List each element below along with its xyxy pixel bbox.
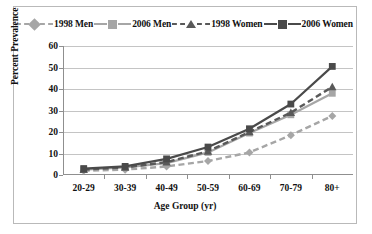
x-tick-label: 80+ — [325, 183, 340, 193]
x-tick-label: 60-69 — [238, 183, 260, 193]
y-axis-title: Percent Prevalence — [10, 8, 20, 85]
x-tick-label: 30-39 — [114, 183, 136, 193]
diamond-marker-icon — [245, 148, 253, 156]
legend-line-segment — [197, 23, 210, 25]
y-tick-label: 60 — [34, 42, 58, 50]
legend-item-1998-men[interactable]: 1998 Men — [16, 15, 94, 33]
diamond-marker-icon — [28, 18, 41, 31]
y-tick-label: 20 — [34, 128, 58, 136]
square-marker-icon — [329, 63, 336, 70]
square-marker-icon — [163, 155, 170, 162]
triangle-marker-icon — [186, 20, 196, 28]
square-marker-icon — [108, 20, 117, 29]
square-marker-icon — [329, 90, 336, 97]
plot-area — [63, 46, 353, 175]
square-marker-icon — [246, 125, 253, 132]
legend-item-2006-women[interactable]: 2006 Women — [264, 15, 354, 33]
legend-line-segment — [264, 23, 277, 25]
legend-item-1998-women[interactable]: 1998 Women — [172, 15, 263, 33]
triangle-marker-icon — [328, 83, 336, 91]
y-tick-label: 10 — [34, 150, 58, 158]
x-tick-label: 70-79 — [280, 183, 302, 193]
legend-line-segment — [288, 23, 301, 25]
legend-item-2006-men[interactable]: 2006 Men — [94, 15, 172, 33]
series-lines — [63, 46, 353, 175]
square-marker-icon — [80, 165, 87, 172]
series-1998-men — [80, 112, 337, 175]
y-tick-label: 40 — [34, 85, 58, 93]
legend-label-1998-women: 1998 Women — [210, 15, 263, 33]
x-tick-label: 20-29 — [73, 183, 95, 193]
y-tick-label: 30 — [34, 107, 58, 115]
legend-label-2006-women: 2006 Women — [301, 15, 354, 33]
legend-label-1998-men: 1998 Men — [53, 15, 94, 33]
square-marker-icon — [278, 20, 287, 29]
legend-line-segment — [94, 23, 107, 25]
square-marker-icon — [122, 163, 129, 170]
legend-line-segment — [172, 23, 185, 25]
chart-figure: 1998 Men 2006 Men 1998 Women 2006 Women … — [13, 6, 357, 224]
diamond-marker-icon — [204, 157, 212, 165]
x-axis-ticks: 20-2930-3940-4950-5960-6970-7980+ — [63, 175, 353, 199]
legend-label-2006-men: 2006 Men — [131, 15, 172, 33]
x-tick-label: 40-49 — [155, 183, 177, 193]
square-marker-icon — [287, 101, 294, 108]
diamond-marker-icon — [328, 112, 336, 120]
diamond-marker-icon — [287, 131, 295, 139]
legend-line-segment — [40, 23, 53, 25]
plot-wrapper: Percent Prevalence 0102030405060 20-2930… — [14, 33, 356, 225]
x-tick-label: 50-59 — [197, 183, 219, 193]
y-tick-label: 50 — [34, 64, 58, 72]
x-axis-title: Age Group (yr) — [14, 201, 356, 211]
square-marker-icon — [205, 144, 212, 151]
chart-legend: 1998 Men 2006 Men 1998 Women 2006 Women — [14, 15, 356, 33]
legend-line-segment — [118, 23, 131, 25]
y-tick-label: 0 — [34, 171, 58, 179]
